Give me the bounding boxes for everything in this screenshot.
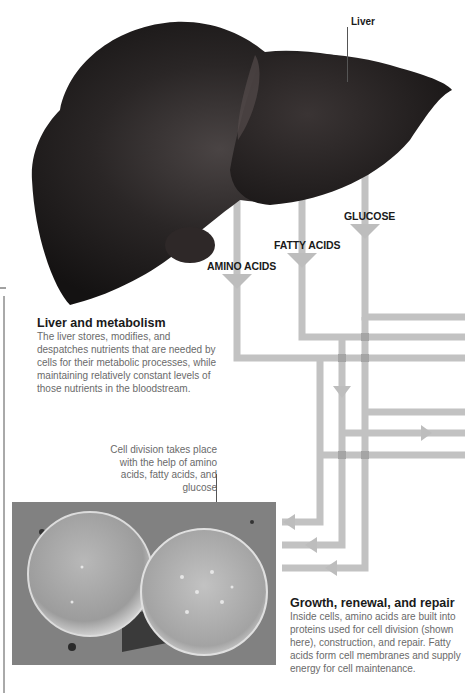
liver-label: Liver	[351, 16, 375, 27]
amino-to-cells-pipe	[282, 358, 320, 522]
right-arrow-icon	[421, 425, 432, 441]
metabolism-heading: Liver and metabolism	[37, 316, 217, 330]
left-arrow-icon	[283, 514, 295, 530]
growth-section: Growth, renewal, and repair Inside cells…	[290, 596, 462, 675]
cells-image	[12, 502, 276, 665]
left-arrow-icon	[305, 537, 317, 553]
fatty-acids-label: FATTY ACIDS	[274, 239, 340, 251]
metabolism-section: Liver and metabolism The liver stores, m…	[37, 316, 217, 395]
left-arrow-icon	[325, 560, 337, 576]
growth-heading: Growth, renewal, and repair	[290, 596, 462, 610]
glucose-label: GLUCOSE	[344, 210, 395, 222]
amino-acids-label: AMINO ACIDS	[207, 260, 276, 272]
fatty-to-cells-pipe	[282, 337, 342, 545]
liver-leader-line	[347, 27, 348, 82]
growth-body: Inside cells, amino acids are built into…	[290, 610, 462, 675]
metabolism-body: The liver stores, modifies, and despatch…	[37, 330, 217, 395]
down-arrow-icon	[333, 386, 351, 398]
cell-division-caption: Cell division takes place with the help …	[95, 444, 217, 494]
